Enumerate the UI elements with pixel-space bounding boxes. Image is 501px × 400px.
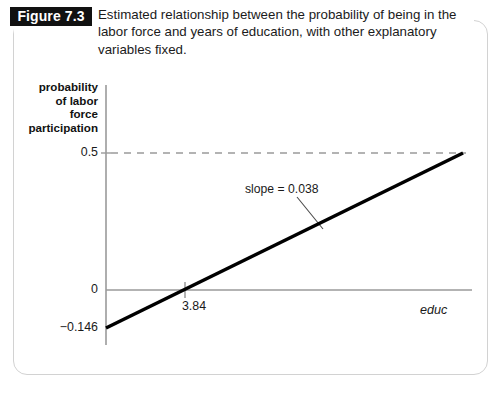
y-axis-label-line-2: of labor xyxy=(18,94,98,108)
x-tick-label-384: 3.84 xyxy=(168,299,220,313)
slope-annotation: slope = 0.038 xyxy=(245,182,319,196)
y-tick-label-05: 0.5 xyxy=(62,145,98,159)
y-axis-label-line-1: probability xyxy=(18,80,98,94)
y-axis-label-line-4: participation xyxy=(18,121,98,135)
y-tick-label-intercept: −0.146 xyxy=(30,320,98,334)
y-axis-label-line-3: force xyxy=(18,107,98,121)
estimated-probability-line xyxy=(106,153,463,328)
y-axis-label: probability of labor force participation xyxy=(18,80,98,134)
x-axis-label: educ xyxy=(420,303,447,317)
figure-panel: Figure 7.3 Estimated relationship betwee… xyxy=(0,0,501,400)
chart-canvas xyxy=(0,0,501,400)
y-tick-label-0: 0 xyxy=(62,282,98,296)
